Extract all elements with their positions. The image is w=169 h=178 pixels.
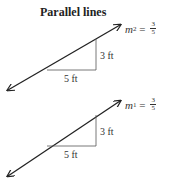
run-label-2: 5 ft (64, 73, 78, 84)
rise-label-1: 3 ft (100, 126, 114, 137)
slope-fraction: 35 (150, 97, 156, 112)
equals-sign: = (136, 99, 148, 111)
numerator: 3 (151, 21, 155, 28)
slope-fraction: 35 (150, 21, 156, 36)
slope-symbol: m (125, 99, 133, 111)
denominator: 5 (151, 29, 155, 36)
denominator: 5 (151, 105, 155, 112)
equals-sign: = (136, 23, 148, 35)
rise-label-2: 3 ft (100, 50, 114, 61)
line-1-arrow (8, 101, 120, 176)
slope-label-1: m1 = 35 (125, 97, 156, 112)
slope-symbol: m (125, 23, 133, 35)
numerator: 3 (151, 97, 155, 104)
run-label-1: 5 ft (64, 149, 78, 160)
slope-label-2: m2 = 35 (125, 21, 156, 36)
slope-triangle-1 (47, 115, 96, 146)
line-1-group (8, 101, 120, 176)
